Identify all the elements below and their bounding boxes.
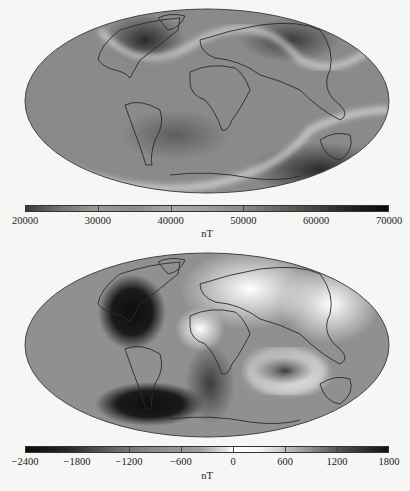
colorbar-tick-label: 50000 bbox=[230, 215, 256, 226]
colorbar-tick bbox=[233, 447, 234, 452]
colorbar-tick-label: 20000 bbox=[12, 215, 38, 226]
colorbar-tick bbox=[181, 447, 182, 452]
colorbar-tick-label: −1200 bbox=[116, 456, 143, 467]
colorbar-tick bbox=[285, 447, 286, 452]
colorbar-tick bbox=[171, 206, 172, 211]
colorbar-tick-label: 0 bbox=[230, 456, 235, 467]
colorbar-intensity bbox=[25, 205, 389, 212]
colorbar-tick-label: 1200 bbox=[327, 456, 348, 467]
colorbar-tick bbox=[243, 206, 244, 211]
colorbar-tick-label: 600 bbox=[277, 456, 293, 467]
top-mollweide-map bbox=[0, 0, 410, 200]
bottom-map-panel: −2400 −1800 −1200 −600 0 600 1200 1800 n… bbox=[0, 244, 410, 491]
colorbar-unit-label: nT bbox=[201, 470, 213, 481]
colorbar-unit-label: nT bbox=[201, 228, 213, 239]
colorbar-secular-change bbox=[25, 446, 389, 453]
colorbar-tick-label: −2400 bbox=[12, 456, 39, 467]
colorbar-tick-label: 60000 bbox=[303, 215, 329, 226]
colorbar-tick-label: 70000 bbox=[376, 215, 402, 226]
colorbar-tick-label: −600 bbox=[170, 456, 192, 467]
colorbar-tick bbox=[336, 447, 337, 452]
top-map-panel: 20000 30000 40000 50000 60000 70000 nT bbox=[0, 0, 410, 240]
colorbar-tick bbox=[129, 447, 130, 452]
colorbar-tick-label: 1800 bbox=[379, 456, 400, 467]
colorbar-tick-label: 40000 bbox=[157, 215, 183, 226]
colorbar-tick-label: −1800 bbox=[64, 456, 91, 467]
colorbar-tick-label: 30000 bbox=[85, 215, 111, 226]
colorbar-tick bbox=[98, 206, 99, 211]
bottom-mollweide-map bbox=[0, 244, 410, 444]
